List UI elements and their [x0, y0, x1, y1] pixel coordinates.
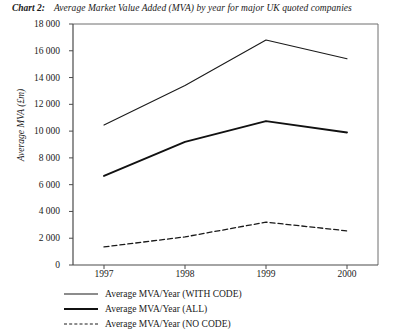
- legend-item: Average MVA/Year (NO CODE): [64, 316, 364, 331]
- data-series-line-2: [104, 121, 347, 176]
- plot-area: Average MVA (£m) 02 0004 0006 0008 00010…: [0, 0, 398, 280]
- legend-line-swatch-icon: [64, 289, 98, 299]
- legend-item-label: Average MVA/Year (ALL): [105, 304, 207, 314]
- legend-item-label: Average MVA/Year (NO CODE): [105, 319, 231, 329]
- legend-item-label: Average MVA/Year (WITH CODE): [105, 289, 242, 299]
- legend-line-swatch-icon: [64, 304, 98, 314]
- data-series-line-3: [104, 222, 347, 247]
- chart-legend: Average MVA/Year (WITH CODE)Average MVA/…: [64, 286, 364, 331]
- legend-item: Average MVA/Year (ALL): [64, 301, 364, 316]
- chart-page: Chart 2: Average Market Value Added (MVA…: [0, 0, 398, 335]
- line-chart-svg: [0, 0, 398, 280]
- legend-line-swatch-icon: [64, 319, 98, 329]
- legend-item: Average MVA/Year (WITH CODE): [64, 286, 364, 301]
- data-series-line-1: [104, 40, 347, 125]
